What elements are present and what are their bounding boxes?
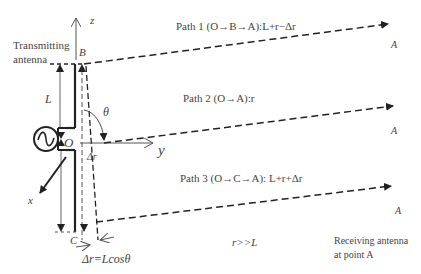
path-2-endpoint: A bbox=[390, 125, 398, 136]
length-dimension-top bbox=[56, 64, 64, 128]
path-3-label: Path 3 (O→C→A): L+r+Δr bbox=[180, 172, 303, 185]
path-3-line bbox=[96, 186, 391, 222]
antenna-path-diagram: z Transmitting antenna B L O x bbox=[0, 0, 421, 274]
signal-source-icon bbox=[34, 127, 66, 151]
receiving-antenna-label-2: at point A bbox=[334, 249, 374, 260]
y-axis-label: y bbox=[156, 142, 165, 158]
length-l-label: L bbox=[44, 92, 52, 106]
path-1-endpoint: A bbox=[390, 39, 398, 50]
path-2-label: Path 2 (O→A):r bbox=[183, 92, 255, 105]
theta-arc bbox=[84, 110, 104, 140]
point-c-label: C bbox=[70, 234, 78, 246]
r-much-greater-l: r>>L bbox=[232, 236, 257, 248]
path-1-label: Path 1 (O→B→A):L+r−Δr bbox=[176, 20, 296, 33]
receiving-antenna-label: Receiving antenna bbox=[334, 235, 409, 246]
transmitting-antenna-label: Transmitting bbox=[13, 39, 70, 51]
z-axis-label: z bbox=[89, 14, 95, 26]
theta-label: θ bbox=[103, 105, 109, 119]
path-2-line bbox=[104, 106, 393, 143]
transmitting-antenna-label-2: antenna bbox=[13, 53, 47, 65]
x-axis-label: x bbox=[27, 194, 33, 206]
x-axis bbox=[40, 157, 66, 193]
path-3-endpoint: A bbox=[394, 205, 402, 216]
origin-o-label: O bbox=[64, 135, 74, 150]
delta-r-label: Δr bbox=[86, 151, 97, 162]
delta-r-formula: Δr=Lcosθ bbox=[81, 252, 130, 266]
point-b-label: B bbox=[79, 46, 86, 58]
